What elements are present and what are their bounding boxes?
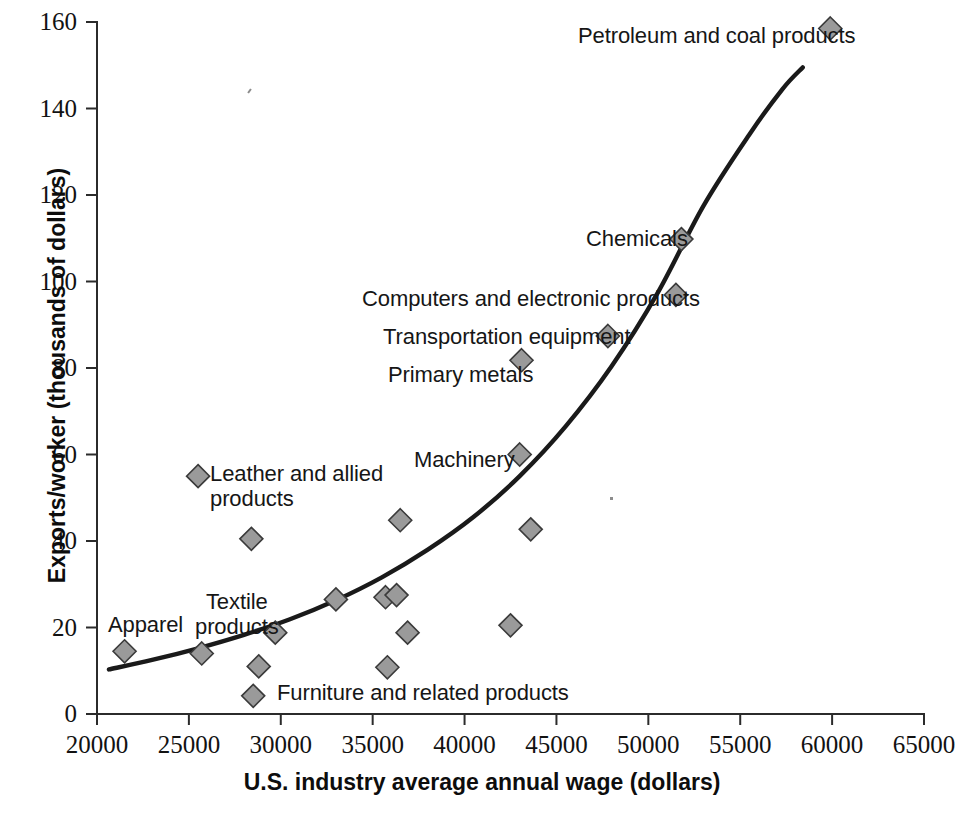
point-label-machinery: Machinery [414, 448, 515, 473]
point-label-leather-and-allied-products: Leather and allied products [210, 462, 383, 511]
data-point-marker [247, 655, 270, 678]
data-point-marker [187, 465, 210, 488]
scan-artifact-speck-mid [610, 497, 613, 500]
data-point-marker [499, 614, 522, 637]
y-axis-title: Exports/worker (thousands of dollars) [44, 36, 71, 716]
scatter-chart-figure: 020406080100120140160 200002500030000350… [0, 0, 964, 815]
point-label-computers-and-electronic-products: Computers and electronic products [362, 287, 700, 312]
y-axis-tick-label: 160 [0, 9, 77, 34]
x-axis-tick-label: 65000 [864, 732, 964, 757]
data-point-marker [240, 527, 263, 550]
point-label-chemicals: Chemicals [586, 227, 688, 252]
point-label-petroleum-and-coal-products: Petroleum and coal products [578, 24, 855, 49]
data-point-marker [519, 518, 542, 541]
data-point-marker [389, 509, 412, 532]
data-point-marker [242, 684, 265, 707]
data-point-marker [376, 656, 399, 679]
point-label-apparel: Apparel [108, 613, 183, 638]
point-label-primary-metals: Primary metals [388, 363, 533, 388]
data-point-marker [113, 640, 136, 663]
point-label-textile-products: Textile products [195, 590, 279, 639]
point-label-transportation-equipment: Transportation equipment [383, 325, 631, 350]
data-point-marker [324, 588, 347, 611]
point-label-furniture-and-related-products: Furniture and related products [277, 681, 569, 706]
x-axis-title: U.S. industry average annual wage (dolla… [0, 769, 964, 796]
data-point-marker [396, 621, 419, 644]
